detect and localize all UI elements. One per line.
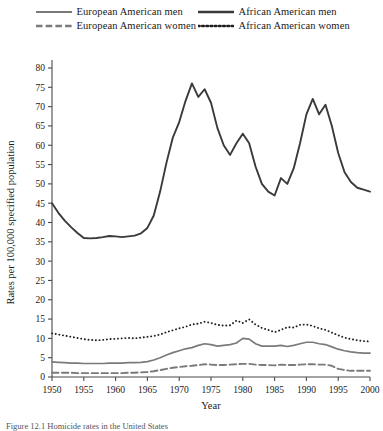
legend-label: European American men (77, 6, 183, 17)
x-tick-label: 1965 (138, 385, 157, 395)
legend-row-2: European American women African American… (36, 20, 348, 31)
legend-label: African American women (239, 20, 350, 31)
x-axis-title: Year (201, 400, 221, 411)
line-chart: 0510152025303540455055606570758019501955… (0, 52, 383, 422)
line-solid-icon (198, 8, 234, 16)
x-tick-label: 1955 (74, 385, 93, 395)
legend-label: African American men (239, 6, 337, 17)
x-tick-label: 1995 (329, 385, 348, 395)
figure-caption: Figure 12.1 Homicide rates in the United… (6, 421, 378, 431)
series-line-african-american-men (52, 83, 370, 238)
series-line-african-american-women (52, 319, 370, 341)
x-tick-label: 2000 (361, 385, 380, 395)
y-tick-label: 10 (36, 334, 46, 344)
series-line-european-american-men (52, 338, 370, 363)
x-tick-label: 1950 (43, 385, 62, 395)
y-tick-label: 50 (36, 179, 46, 189)
series-line-european-american-women (52, 364, 370, 373)
chart-series (52, 83, 370, 373)
y-tick-label: 25 (36, 276, 46, 286)
figure-container: European American men African American m… (0, 0, 383, 431)
line-solid-icon (36, 8, 72, 16)
y-tick-label: 70 (36, 102, 46, 112)
y-tick-label: 0 (40, 372, 45, 382)
y-tick-label: 65 (36, 121, 46, 131)
x-tick-label: 1980 (233, 385, 252, 395)
line-dashed-icon (36, 22, 72, 30)
x-tick-label: 1970 (170, 385, 189, 395)
x-tick-label: 1960 (106, 385, 125, 395)
legend-item-european-american-men: European American men (36, 6, 184, 17)
y-tick-label: 75 (36, 83, 46, 93)
chart-legend: European American men African American m… (0, 6, 383, 31)
legend-item-african-american-men: African American men (198, 6, 348, 17)
y-tick-label: 30 (36, 257, 46, 267)
chart-axes (48, 60, 370, 381)
legend-item-european-american-women: European American women (36, 20, 184, 31)
y-tick-label: 15 (36, 314, 46, 324)
legend-label: European American women (77, 20, 197, 31)
y-tick-label: 20 (36, 295, 46, 305)
chart-labels: 0510152025303540455055606570758019501955… (5, 63, 380, 411)
y-tick-label: 40 (36, 218, 46, 228)
y-tick-label: 5 (40, 353, 45, 363)
y-tick-label: 60 (36, 141, 46, 151)
line-dotted-icon (198, 22, 234, 30)
y-tick-label: 45 (36, 199, 46, 209)
x-tick-label: 1990 (297, 385, 316, 395)
y-tick-label: 80 (36, 63, 46, 73)
x-tick-label: 1985 (265, 385, 284, 395)
legend-row-1: European American men African American m… (36, 6, 348, 17)
legend-item-african-american-women: African American women (198, 20, 348, 31)
y-axis-title: Rates per 100,000 specified population (5, 140, 16, 305)
y-tick-label: 55 (36, 160, 46, 170)
x-tick-label: 1975 (202, 385, 221, 395)
y-tick-label: 35 (36, 237, 46, 247)
